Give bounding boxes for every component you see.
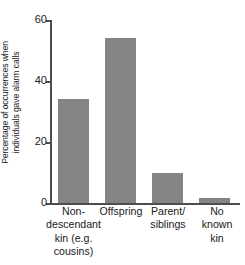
x-label-line: known [187,218,245,231]
y-axis-line [50,20,52,204]
x-axis-labels: Non- descendant kin (e.g. cousins) Offsp… [51,205,241,265]
y-tick-label: 40 [35,74,47,87]
y-axis-title-line-2: individuals gave alarm calls [11,0,22,205]
x-label-line: cousins) [21,245,126,258]
bar-offspring [105,38,136,203]
x-label-line: kin [187,232,245,245]
y-axis-title-line-1: Percentage of occurrences when [0,0,11,205]
x-label-no-known-kin: No known kin [187,205,245,245]
bar-non-descendant-kin [58,99,89,203]
x-label-line: descendant [21,218,126,231]
x-label-line: No [187,205,245,218]
bar-chart-figure: Percentage of occurrences when individua… [0,0,245,265]
bar-no-known-kin [199,198,230,203]
bar-parent-siblings [152,173,183,204]
y-tick-label: 60 [35,13,47,26]
y-axis-title-container: Percentage of occurrences when individua… [0,0,30,210]
plot-area: 0 20 40 60 [51,20,240,203]
y-tick-label: 20 [35,135,47,148]
y-axis-title: Percentage of occurrences when individua… [0,0,22,205]
x-label-line: kin (e.g. [21,232,126,245]
